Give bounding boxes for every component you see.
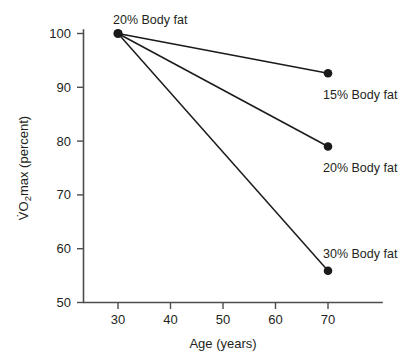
y-axis-title-rest: max (percent)	[16, 116, 31, 196]
annotation-20-body-fat: 20% Body fat	[323, 161, 398, 175]
x-tick-label-70: 70	[321, 312, 335, 327]
vo2max-age-line-chart: 50 60 70 80 90 100 30 40 50 60 70 Age (y…	[0, 0, 408, 363]
x-axis-tick-labels: 30 40 50 60 70	[111, 312, 335, 327]
y-axis-title: V̇O2max (percent)	[16, 116, 33, 220]
y-axis-title-o: O	[16, 201, 31, 211]
x-tick-label-40: 40	[163, 312, 177, 327]
series-annotations: 20% Body fat 15% Body fat 20% Body fat 3…	[113, 13, 398, 261]
marker-30-percent-end	[324, 267, 333, 276]
data-series-group	[118, 34, 328, 271]
svg-text:V̇O2max (percent): V̇O2max (percent)	[16, 116, 33, 220]
y-tick-label-100: 100	[49, 26, 71, 41]
x-axis-title: Age (years)	[189, 336, 256, 351]
series-line-20-percent	[118, 34, 328, 147]
x-axis-ticks	[118, 303, 328, 310]
annotation-30-body-fat: 30% Body fat	[323, 247, 398, 261]
series-line-30-percent	[118, 34, 328, 271]
x-tick-label-60: 60	[268, 312, 282, 327]
y-axis-tick-labels: 50 60 70 80 90 100	[49, 26, 71, 310]
annotation-origin-20-body-fat: 20% Body fat	[113, 13, 188, 27]
x-tick-label-50: 50	[216, 312, 230, 327]
y-axis-ticks	[77, 34, 84, 303]
y-tick-label-80: 80	[57, 134, 71, 149]
chart-figure: 50 60 70 80 90 100 30 40 50 60 70 Age (y…	[0, 0, 408, 363]
series-line-15-percent	[118, 34, 328, 74]
marker-15-percent-end	[324, 69, 333, 78]
marker-origin	[113, 29, 122, 38]
y-tick-label-50: 50	[57, 295, 71, 310]
x-tick-label-30: 30	[111, 312, 125, 327]
annotation-15-body-fat: 15% Body fat	[323, 88, 398, 102]
y-tick-label-70: 70	[57, 187, 71, 202]
y-tick-label-90: 90	[57, 80, 71, 95]
y-tick-label-60: 60	[57, 241, 71, 256]
marker-20-percent-end	[324, 142, 333, 151]
y-axis-title-vdot: V̇	[16, 211, 31, 220]
